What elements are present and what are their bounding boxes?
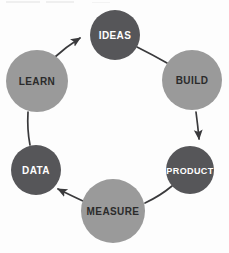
node-label-data: DATA — [22, 165, 50, 176]
connector-data-to-learn — [28, 112, 30, 145]
node-product[interactable]: PRODUCT — [166, 146, 214, 194]
cycle-diagram: IDEASBUILDPRODUCTMEASUREDATALEARN — [0, 0, 229, 253]
connector-ideas-to-build — [137, 47, 167, 63]
connector-learn-to-ideas — [55, 38, 80, 57]
node-label-product: PRODUCT — [166, 166, 213, 176]
connector-build-to-product — [196, 112, 199, 139]
node-label-measure: MEASURE — [87, 206, 140, 217]
connector-product-to-measure — [145, 186, 172, 203]
node-measure[interactable]: MEASURE — [81, 179, 145, 243]
node-label-ideas: IDEAS — [99, 30, 132, 41]
node-label-learn: LEARN — [19, 76, 55, 87]
node-ideas[interactable]: IDEAS — [90, 10, 140, 60]
node-build[interactable]: BUILD — [162, 50, 222, 110]
connector-measure-to-data — [58, 189, 83, 201]
node-learn[interactable]: LEARN — [6, 50, 68, 112]
node-data[interactable]: DATA — [11, 145, 61, 195]
cycle-svg-canvas: IDEASBUILDPRODUCTMEASUREDATALEARN — [0, 0, 229, 253]
nodes-layer: IDEASBUILDPRODUCTMEASUREDATALEARN — [6, 10, 222, 243]
node-label-build: BUILD — [176, 75, 209, 86]
